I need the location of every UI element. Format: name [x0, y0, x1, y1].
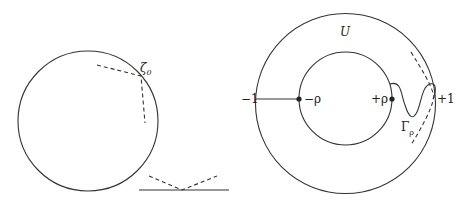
zeta0-label: ζ0	[140, 61, 152, 77]
unit-circle	[18, 51, 158, 191]
diagram-canvas: ζ0 U −1 −ρ +ρ +1 Γρ	[0, 0, 469, 203]
dashed-normal-at-zeta0	[97, 65, 145, 123]
left-figure: ζ0	[18, 51, 229, 191]
plus-one-label: +1	[437, 92, 455, 106]
minus-rho-point	[296, 96, 301, 101]
minus-one-label: −1	[241, 92, 259, 106]
gamma-rho-label: Γρ	[401, 120, 414, 137]
right-figure: U −1 −ρ +ρ +1 Γρ	[241, 14, 455, 194]
region-u-label: U	[340, 25, 351, 39]
plus-rho-point	[389, 96, 394, 101]
dashed-reflection-v	[149, 176, 217, 190]
dashed-boundary-curve	[411, 52, 434, 145]
minus-rho-label: −ρ	[304, 92, 321, 106]
plus-rho-label: +ρ	[371, 92, 388, 106]
outer-circle	[256, 14, 436, 194]
